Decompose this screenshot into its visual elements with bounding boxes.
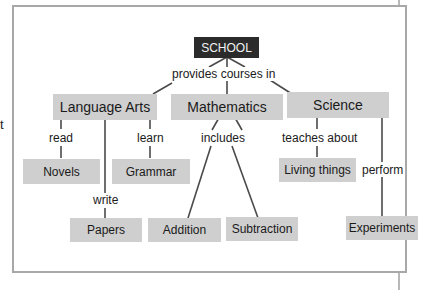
link-teaches-about: teaches about [281,131,358,145]
link-provides-courses-in: provides courses in [171,67,276,81]
node-novels: Novels [23,159,100,184]
link-includes: includes [200,131,246,145]
node-papers: Papers [70,218,142,242]
node-mathematics: Mathematics [171,94,283,120]
node-subtraction: Subtraction [226,217,298,241]
link-read: read [48,131,74,145]
link-write: write [92,193,119,207]
link-perform: perform [361,163,404,177]
node-language-arts: Language Arts [53,94,157,120]
node-school: SCHOOL [194,37,259,58]
link-learn: learn [136,131,165,145]
node-science: Science [287,92,389,118]
node-addition: Addition [148,218,221,242]
node-grammar: Grammar [112,159,190,184]
node-living-things: Living things [279,158,356,182]
node-experiments: Experiments [346,216,418,240]
